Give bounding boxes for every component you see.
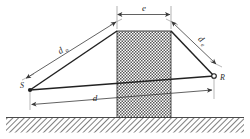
baseline-label: d [93, 93, 98, 103]
obstacle-block [117, 31, 171, 118]
left-path-arrow [27, 22, 117, 78]
receiver-label: R [219, 73, 225, 82]
ground-group [6, 118, 244, 133]
right-path-subscript: e [200, 42, 206, 48]
left-path-dimension [22, 19, 122, 80]
left-ray [30, 31, 117, 90]
right-ray [171, 31, 214, 76]
obstacle-group [117, 31, 171, 118]
right-path-dimension [166, 19, 222, 67]
source-marker [28, 88, 32, 92]
diffraction-geometry-figure: S R d o d e e d [0, 0, 250, 139]
top-width-label: e [142, 3, 146, 13]
right-path-arrow [172, 22, 216, 64]
left-path-label-group: d o [56, 43, 70, 57]
source-label: S [20, 81, 24, 90]
figure-canvas: S R d o d e e d [0, 0, 250, 139]
ground-hatch [6, 118, 244, 133]
left-path-subscript: o [64, 47, 70, 54]
receiver-marker [212, 74, 217, 79]
